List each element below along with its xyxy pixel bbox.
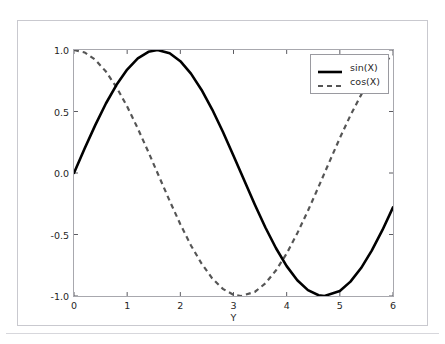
legend-label: sin(X) [350, 62, 378, 73]
x-tick-label: 3 [230, 300, 236, 311]
x-tick-label: 1 [124, 300, 130, 311]
x-tick-label: 2 [177, 300, 183, 311]
y-tick-label: 0.0 [54, 168, 69, 179]
y-tick-label: -1.0 [50, 291, 69, 302]
x-axis-label: Y [231, 312, 237, 323]
figure-card: 1.00.50.0-0.5-1.0 0123456 Y sin(X)cos(X) [17, 20, 428, 326]
legend-item: cos(X) [317, 74, 380, 88]
y-tick-label: 1.0 [54, 45, 69, 56]
page-bottom-rule [6, 333, 439, 334]
clipped-top-text-content: · · · · [26, 0, 109, 4]
chart-legend: sin(X)cos(X) [310, 54, 389, 94]
y-tick-label: -0.5 [50, 229, 69, 240]
x-tick-label: 5 [337, 300, 343, 311]
x-tick-label: 0 [71, 300, 77, 311]
x-tick-label: 6 [390, 300, 396, 311]
legend-item: sin(X) [317, 60, 380, 74]
legend-line-sample-icon [317, 76, 343, 86]
legend-line-sample-icon [317, 62, 343, 72]
y-tick-label: 0.5 [54, 106, 69, 117]
legend-label: cos(X) [350, 76, 380, 87]
plot-axes-area: 1.00.50.0-0.5-1.0 0123456 Y sin(X)cos(X) [73, 49, 394, 297]
clipped-top-text: · · · · [0, 0, 445, 9]
x-tick-label: 4 [284, 300, 290, 311]
